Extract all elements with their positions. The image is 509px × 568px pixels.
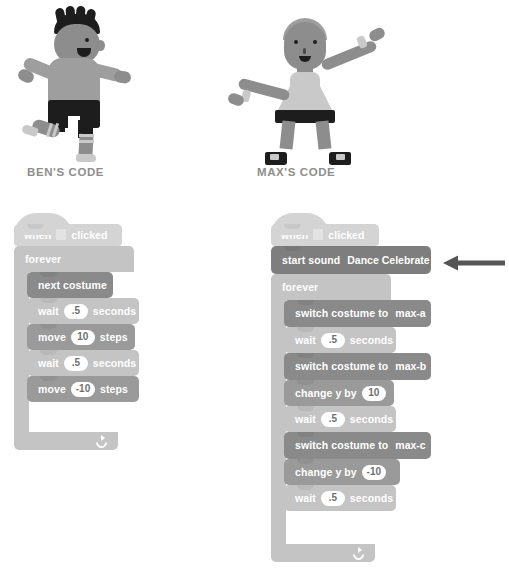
move-value-input[interactable]: -10	[71, 382, 95, 397]
seconds-label: seconds	[350, 493, 393, 504]
seconds-label: seconds	[350, 414, 393, 425]
change-y-block-2[interactable]: change y by -10	[284, 459, 400, 485]
forever-label: forever	[282, 282, 318, 293]
switch-costume-label: switch costume to	[295, 308, 388, 319]
move-block-1[interactable]: move 10 steps	[27, 324, 135, 350]
forever-footer[interactable]	[14, 432, 118, 450]
switch-costume-label: switch costume to	[295, 361, 388, 372]
move-label: move	[38, 384, 66, 395]
forever-footer[interactable]	[271, 544, 375, 562]
change-y-value-input[interactable]: -10	[362, 465, 386, 480]
chevron-down-icon	[433, 311, 441, 316]
steps-label: steps	[100, 384, 128, 395]
start-sound-block[interactable]: start sound Dance Celebrate	[271, 246, 431, 274]
seconds-label: seconds	[350, 335, 393, 346]
costume-dropdown-value: max-b	[395, 361, 426, 372]
steps-label: steps	[100, 332, 128, 343]
costume-dropdown[interactable]: max-a	[395, 308, 440, 319]
ben-code-caption: BEN'S CODE	[27, 166, 104, 178]
change-y-block-1[interactable]: change y by 10	[284, 380, 394, 406]
next-costume-block[interactable]: next costume	[27, 272, 113, 298]
chevron-down-icon	[433, 443, 441, 448]
left-arrow-icon	[443, 255, 505, 271]
when-flag-clicked-block[interactable]: when clicked	[271, 224, 379, 246]
sound-dropdown-value: Dance Celebrate	[347, 255, 429, 266]
when-flag-clicked-block[interactable]: when clicked	[14, 224, 122, 246]
wait-block-1[interactable]: wait .5 seconds	[27, 298, 139, 324]
seconds-label: seconds	[93, 306, 136, 317]
costume-dropdown-value: max-c	[395, 440, 425, 451]
wait-value-input[interactable]: .5	[321, 491, 345, 506]
max-code-stack: when clicked start sound Dance Celebrate…	[271, 212, 451, 560]
start-sound-label: start sound	[282, 255, 340, 266]
loop-arrow-icon	[352, 548, 363, 559]
forever-label: forever	[25, 254, 61, 265]
seconds-label: seconds	[93, 358, 136, 369]
move-value-input[interactable]: 10	[71, 330, 95, 345]
wait-label: wait	[295, 335, 316, 346]
clicked-label: clicked	[328, 230, 364, 241]
change-y-label: change y by	[295, 467, 357, 478]
max-code-caption: MAX'S CODE	[257, 166, 335, 178]
chevron-down-icon	[433, 364, 441, 369]
wait-value-input[interactable]: .5	[64, 356, 88, 371]
wait-block-3[interactable]: wait .5 seconds	[284, 485, 396, 511]
wait-block-1[interactable]: wait .5 seconds	[284, 327, 396, 353]
forever-header[interactable]: forever	[14, 246, 134, 272]
wait-block-2[interactable]: wait .5 seconds	[284, 406, 396, 432]
wait-label: wait	[38, 358, 59, 369]
switch-costume-block-3[interactable]: switch costume to max-c	[284, 432, 431, 459]
move-block-2[interactable]: move -10 steps	[27, 376, 139, 402]
costume-dropdown[interactable]: max-b	[395, 361, 441, 372]
wait-value-input[interactable]: .5	[64, 304, 88, 319]
switch-costume-block-2[interactable]: switch costume to max-b	[284, 353, 431, 380]
change-y-value-input[interactable]: 10	[362, 386, 386, 401]
clicked-label: clicked	[71, 230, 107, 241]
wait-value-input[interactable]: .5	[321, 333, 345, 348]
loop-arrow-icon	[95, 436, 106, 447]
wait-label: wait	[295, 414, 316, 425]
costume-dropdown[interactable]: max-c	[395, 440, 440, 451]
wait-block-2[interactable]: wait .5 seconds	[27, 350, 139, 376]
switch-costume-label: switch costume to	[295, 440, 388, 451]
max-character	[228, 8, 388, 166]
green-flag-icon	[313, 229, 323, 240]
ben-character	[18, 8, 138, 163]
forever-header[interactable]: forever	[271, 274, 391, 300]
sound-dropdown[interactable]: Dance Celebrate	[347, 255, 444, 266]
costume-dropdown-value: max-a	[395, 308, 425, 319]
switch-costume-block-1[interactable]: switch costume to max-a	[284, 300, 431, 327]
move-label: move	[38, 332, 66, 343]
wait-label: wait	[38, 306, 59, 317]
green-flag-icon	[56, 229, 66, 240]
ben-code-stack: when clicked forever next costume wait .…	[14, 212, 174, 444]
next-costume-label: next costume	[38, 280, 107, 291]
wait-value-input[interactable]: .5	[321, 412, 345, 427]
wait-label: wait	[295, 493, 316, 504]
change-y-label: change y by	[295, 388, 357, 399]
